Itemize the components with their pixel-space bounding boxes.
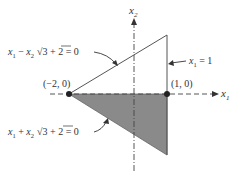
- x2-axis-arrow-icon: [131, 18, 137, 25]
- point-label-1-0: (1, 0): [171, 78, 193, 90]
- shaded-region: [69, 94, 167, 155]
- x2-axis-label: x2: [128, 4, 138, 19]
- leader-arrowhead-lower-icon: [103, 118, 109, 124]
- point-1-0: [164, 91, 170, 97]
- point-label-minus2-0: (−2, 0): [43, 78, 70, 90]
- point-minus2-0: [66, 91, 72, 97]
- constraint-label-lower: x1 + x2√3 + 2 = 0: [7, 126, 79, 139]
- line-upper-constraint: [69, 35, 167, 94]
- x1-axis-arrow-icon: [212, 91, 219, 97]
- constraint-label-upper: x1 − x2√3 + 2 = 0: [7, 46, 79, 59]
- x1-axis-label: x1: [220, 87, 229, 102]
- feasible-region-diagram: x2 x1 (−2, 0) (1, 0) x1 − x2√3 + 2 = 0 x…: [0, 0, 235, 172]
- constraint-label-x1-equals-1: x1 = 1: [188, 55, 212, 68]
- leader-arrowhead-x1-icon: [168, 60, 174, 66]
- leader-arrow-upper: [94, 52, 116, 64]
- leader-arrow-lower: [94, 122, 106, 132]
